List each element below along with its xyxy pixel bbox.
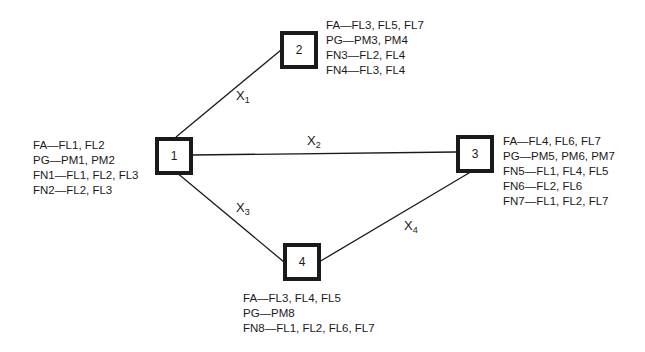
edge-3-4 [319,170,474,262]
attr-line: FN2—FL2, FL3 [33,183,138,198]
attr-line: FN5—FL1, FL4, FL5 [503,164,615,179]
node-4-attributes: FA—FL3, FL4, FL5 PG—PM8 FN8—FL1, FL2, FL… [243,291,375,336]
node-3: 3 [456,135,494,173]
attr-line: FN3—FL2, FL4 [326,48,424,63]
attr-line: FN7—FL1, FL2, FL7 [503,194,615,209]
edge-sub: 2 [316,140,321,150]
edge-label-x2: X2 [307,133,321,150]
node-4-label: 4 [299,255,306,269]
node-1-attributes: FA—FL1, FL2 PG—PM1, PM2 FN1—FL1, FL2, FL… [33,138,138,198]
attr-line: FA—FL4, FL6, FL7 [503,134,615,149]
edge-1-4 [176,172,284,262]
attr-line: FN4—FL3, FL4 [326,63,424,78]
attr-line: PG—PM5, PM6, PM7 [503,149,615,164]
edge-label-x3: X3 [236,200,250,217]
edge-1-3 [191,152,456,155]
node-3-label: 3 [472,147,479,161]
attr-line: PG—PM1, PM2 [33,153,138,168]
edge-1-2 [176,50,281,137]
attr-line: PG—PM3, PM4 [326,33,424,48]
edge-var: X [236,88,245,103]
node-3-attributes: FA—FL4, FL6, FL7 PG—PM5, PM6, PM7 FN5—FL… [503,134,615,209]
attr-line: FA—FL3, FL4, FL5 [243,291,375,306]
edge-label-x4: X4 [404,218,418,235]
attr-line: FN8—FL1, FL2, FL6, FL7 [243,321,375,336]
edge-sub: 1 [245,95,250,105]
edge-sub: 3 [245,207,250,217]
node-1: 1 [155,137,193,175]
node-2: 2 [280,31,318,69]
attr-line: FA—FL3, FL5, FL7 [326,18,424,33]
edge-var: X [307,133,316,148]
node-1-label: 1 [171,149,178,163]
edge-sub: 4 [413,225,418,235]
node-4: 4 [283,243,321,281]
edge-var: X [404,218,413,233]
node-2-attributes: FA—FL3, FL5, FL7 PG—PM3, PM4 FN3—FL2, FL… [326,18,424,78]
attr-line: FN1—FL1, FL2, FL3 [33,168,138,183]
edge-label-x1: X1 [236,88,250,105]
edge-var: X [236,200,245,215]
attr-line: FA—FL1, FL2 [33,138,138,153]
node-2-label: 2 [296,43,303,57]
attr-line: FN6—FL2, FL6 [503,179,615,194]
attr-line: PG—PM8 [243,306,375,321]
